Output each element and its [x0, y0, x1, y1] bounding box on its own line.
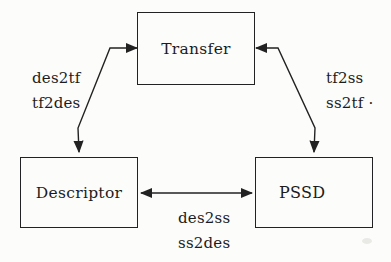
edge-label-descriptor-pssd: des2ss ss2des	[178, 206, 230, 256]
edge-label-ss2des: ss2des	[178, 231, 230, 256]
edge-label-des2tf: des2tf	[32, 66, 81, 91]
diagram-canvas: Transfer Descriptor PSSD des2tf tf2des t…	[0, 0, 391, 262]
scan-smudge	[362, 238, 372, 244]
connector-transfer-descriptor	[78, 48, 137, 152]
edge-label-tf2des: tf2des	[32, 91, 81, 116]
node-pssd: PSSD	[255, 157, 373, 228]
edge-label-tf2ss: tf2ss	[326, 66, 373, 91]
node-descriptor: Descriptor	[20, 157, 138, 228]
edge-label-des2ss: des2ss	[178, 206, 230, 231]
edge-label-transfer-pssd: tf2ss ss2tf ·	[326, 66, 373, 116]
node-descriptor-label: Descriptor	[36, 184, 123, 202]
node-transfer: Transfer	[137, 12, 255, 85]
connector-transfer-pssd	[256, 48, 315, 152]
node-pssd-label: PSSD	[279, 183, 325, 202]
edge-label-ss2tf: ss2tf ·	[326, 91, 373, 116]
node-transfer-label: Transfer	[161, 40, 231, 58]
edge-label-transfer-descriptor: des2tf tf2des	[32, 66, 81, 116]
